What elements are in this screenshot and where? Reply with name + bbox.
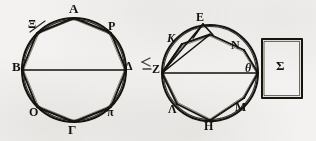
label-right-N: N [231,39,240,51]
label-left-A: A [69,2,78,15]
label-right-E: E [196,11,204,23]
label-left-O: O [29,106,38,118]
label-right-H: H [204,120,213,132]
label-left-B: B [12,60,21,73]
label-right-theta: θ [245,62,251,74]
label-right-Lambda: Λ [168,103,177,115]
label-left-pi: π [107,106,114,118]
margin-stray-strokes [142,58,151,69]
label-sigma: Σ [276,59,285,72]
label-left-Gamma: Γ [68,123,76,136]
label-right-Z: Z [152,63,160,75]
label-left-Delta: Δ [125,60,133,72]
figure-canvas: A P Δ π Γ O B Ξ Κ N θ M H Λ Z E Σ [0,0,316,141]
label-right-Kappa: Κ [167,32,175,44]
label-left-P: P [108,20,115,32]
label-left-Xi: Ξ [28,18,36,30]
label-right-M: M [235,101,246,113]
